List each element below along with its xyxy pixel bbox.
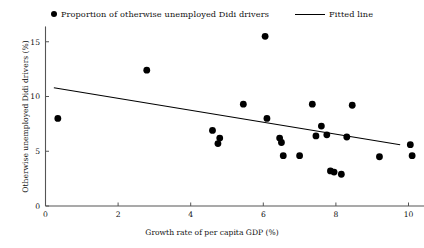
y-tick-label: 0 bbox=[35, 202, 40, 211]
data-point bbox=[143, 67, 150, 74]
data-point bbox=[296, 152, 303, 159]
data-point bbox=[54, 115, 61, 122]
y-tick-label: 15 bbox=[30, 38, 40, 47]
scatter-chart-figure: 0510150246810 Proportion of otherwise un… bbox=[0, 0, 424, 248]
data-point bbox=[240, 101, 247, 108]
x-tick-label: 0 bbox=[43, 210, 48, 219]
data-point bbox=[262, 33, 269, 40]
data-point bbox=[409, 152, 416, 159]
x-tick-label: 4 bbox=[188, 210, 193, 219]
data-point bbox=[209, 127, 216, 134]
data-point bbox=[338, 171, 345, 178]
data-point bbox=[280, 152, 287, 159]
data-point bbox=[343, 134, 350, 141]
data-point bbox=[331, 169, 338, 176]
x-tick-label: 8 bbox=[333, 210, 338, 219]
data-point bbox=[264, 115, 271, 122]
y-tick-label: 10 bbox=[30, 92, 40, 101]
data-point bbox=[278, 139, 285, 146]
x-tick-label: 2 bbox=[116, 210, 121, 219]
x-axis-title: Growth rate of per capita GDP (%) bbox=[0, 228, 424, 237]
data-point bbox=[376, 153, 383, 160]
plot-area: 0510150246810 bbox=[0, 0, 424, 248]
data-point bbox=[313, 133, 320, 140]
data-point bbox=[407, 141, 414, 148]
x-tick-label: 10 bbox=[404, 210, 414, 219]
fitted-line bbox=[54, 88, 400, 145]
y-tick-label: 5 bbox=[35, 147, 40, 156]
y-axis-title: Otherwise unemployed Didi drivers (%) bbox=[21, 32, 30, 202]
data-point bbox=[216, 135, 223, 142]
data-point bbox=[309, 101, 316, 108]
data-point bbox=[349, 102, 356, 109]
data-point bbox=[318, 123, 325, 130]
x-tick-label: 6 bbox=[261, 210, 266, 219]
